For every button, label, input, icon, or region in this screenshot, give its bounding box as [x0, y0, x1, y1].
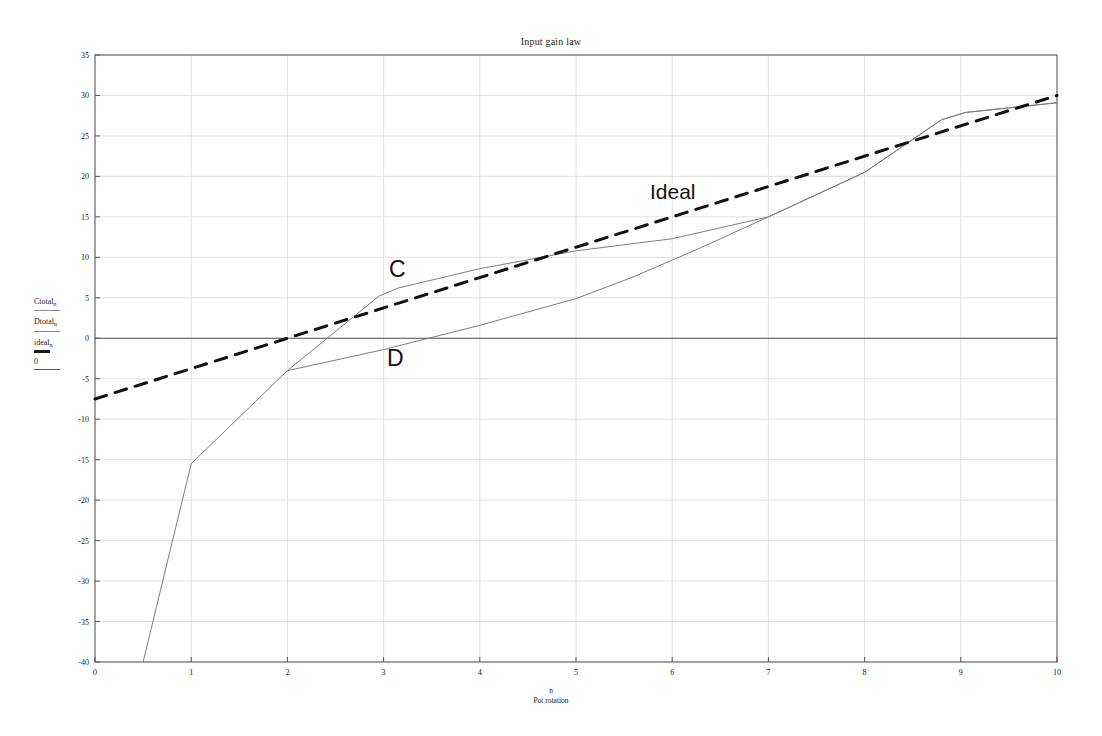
y-tick-label: 35 — [61, 51, 89, 60]
x-tick-label: 9 — [949, 668, 973, 677]
chart-page: Input gain law -40-35-30-25-20-15-10-505… — [0, 0, 1102, 736]
x-axis-label: Pot rotation — [0, 696, 1102, 705]
x-tick-label: 10 — [1045, 668, 1069, 677]
plot-canvas — [0, 0, 1102, 736]
legend-item-label: Dtotaln — [34, 318, 90, 327]
annotation-ideal: Ideal — [650, 180, 696, 204]
y-tick-label: 20 — [61, 172, 89, 181]
x-tick-label: 3 — [372, 668, 396, 677]
annotation-d: D — [387, 345, 404, 372]
x-tick-label: 8 — [853, 668, 877, 677]
annotation-c: C — [389, 256, 406, 283]
y-tick-label: -25 — [61, 536, 89, 545]
series-Ctotal — [143, 103, 1057, 662]
legend-item: Dtotaln — [34, 318, 90, 337]
x-tick-label: 4 — [468, 668, 492, 677]
y-tick-label: -20 — [61, 496, 89, 505]
x-tick-label: 1 — [179, 668, 203, 677]
thin-line-key — [34, 331, 90, 338]
gridlines — [95, 55, 1057, 662]
x-tick-label: 0 — [83, 668, 107, 677]
x-tick-label: 2 — [275, 668, 299, 677]
x-tick-label: 7 — [756, 668, 780, 677]
legend-item: 0 — [34, 358, 90, 376]
thick-dash-key — [34, 350, 90, 357]
legend-item: idealn — [34, 339, 90, 357]
y-tick-label: -35 — [61, 617, 89, 626]
legend-item-label: idealn — [34, 339, 90, 348]
x-axis-symbol: n — [0, 686, 1102, 695]
y-tick-label: 25 — [61, 131, 89, 140]
legend: CtotalnDtotalnidealn0 — [34, 298, 90, 377]
y-tick-label: -40 — [61, 658, 89, 667]
x-tick-label: 6 — [660, 668, 684, 677]
zero-line-key — [34, 369, 90, 376]
y-tick-label: -15 — [61, 455, 89, 464]
legend-item-label: 0 — [34, 358, 90, 366]
y-tick-label: 30 — [61, 91, 89, 100]
legend-item-label: Ctotaln — [34, 298, 90, 307]
y-tick-label: -30 — [61, 577, 89, 586]
y-tick-label: -10 — [61, 415, 89, 424]
x-tick-label: 5 — [564, 668, 588, 677]
y-tick-label: 15 — [61, 212, 89, 221]
thin-line-key — [34, 310, 90, 317]
y-tick-label: 10 — [61, 253, 89, 262]
legend-item: Ctotaln — [34, 298, 90, 317]
